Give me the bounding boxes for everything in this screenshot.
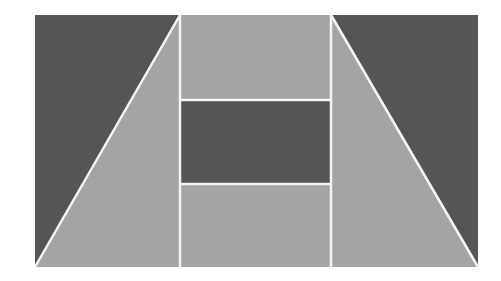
geometric-partition-diagram: [0, 0, 501, 281]
diagram-canvas: [0, 0, 501, 281]
center-middle-dark-band: [180, 100, 331, 184]
pieces-layer: [35, 15, 478, 267]
center-top-light-band: [180, 15, 331, 100]
center-bottom-light-band: [180, 184, 331, 267]
